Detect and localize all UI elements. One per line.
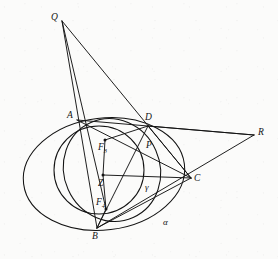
dot-Z bbox=[102, 174, 105, 177]
figure-canvas bbox=[0, 0, 278, 259]
conic-label-alpha: α bbox=[163, 218, 168, 227]
segment-Q-A-B bbox=[62, 21, 97, 228]
segment-D-C bbox=[148, 126, 191, 178]
segments-group bbox=[62, 21, 254, 228]
segment-D-R bbox=[148, 126, 254, 135]
segment-A-P-C bbox=[77, 120, 191, 178]
point-label-P: P bbox=[146, 141, 152, 151]
point-label-F3: F3 bbox=[98, 143, 107, 154]
conic-label-gamma: γ bbox=[145, 183, 149, 192]
point-label-A: A bbox=[67, 111, 73, 121]
geometry-figure: QADRF3PZCF4Bγα bbox=[0, 0, 278, 259]
point-label-D: D bbox=[145, 113, 152, 123]
point-label-B: B bbox=[92, 232, 98, 242]
point-label-R: R bbox=[258, 128, 264, 138]
point-label-F4: F4 bbox=[96, 198, 105, 209]
point-label-Z: Z bbox=[98, 179, 103, 189]
point-label-Q: Q bbox=[51, 13, 58, 23]
segment-Z-C bbox=[103, 175, 191, 178]
point-label-C: C bbox=[194, 174, 200, 184]
